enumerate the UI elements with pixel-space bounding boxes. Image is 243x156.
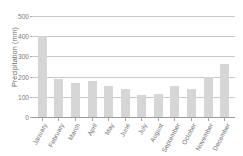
- bar-slot: [34, 16, 51, 117]
- bars-layer: [32, 16, 235, 117]
- bar[interactable]: [170, 86, 179, 117]
- bar-slot: [133, 16, 150, 117]
- x-tick-label: August: [149, 122, 165, 143]
- bar[interactable]: [104, 86, 113, 117]
- y-tick-label-300: 300: [18, 53, 29, 60]
- x-label-slot: October: [183, 121, 200, 156]
- x-tick-label: October: [181, 122, 198, 146]
- x-label-slot: July: [133, 121, 150, 156]
- bar-slot: [100, 16, 117, 117]
- bar[interactable]: [137, 95, 146, 117]
- x-label-slot: December: [216, 121, 233, 156]
- bar[interactable]: [154, 94, 163, 117]
- bar-slot: [216, 16, 233, 117]
- bar[interactable]: [71, 83, 80, 117]
- bar-slot: [117, 16, 134, 117]
- bar-slot: [51, 16, 68, 117]
- x-label-slot: April: [84, 121, 101, 156]
- bar[interactable]: [204, 77, 213, 117]
- x-tick-label: May: [103, 122, 115, 136]
- x-tick-label: July: [136, 122, 148, 136]
- y-tick-label-500: 500: [18, 13, 29, 20]
- precipitation-bar-chart: Precipitation (mm) 0100200300400500 Janu…: [0, 0, 243, 156]
- y-tick-label-400: 400: [18, 33, 29, 40]
- bar[interactable]: [88, 81, 97, 117]
- bar[interactable]: [38, 36, 47, 117]
- y-tick-label-200: 200: [18, 73, 29, 80]
- x-tick-label: March: [67, 122, 82, 141]
- bar[interactable]: [121, 89, 130, 117]
- x-tick-label: January: [31, 122, 48, 146]
- bar[interactable]: [220, 64, 229, 117]
- bar-slot: [183, 16, 200, 117]
- bar-slot: [200, 16, 217, 117]
- x-axis-labels: JanuaryFebruaryMarchAprilMayJuneJulyAugu…: [32, 121, 235, 156]
- bar-slot: [150, 16, 167, 117]
- bar-slot: [84, 16, 101, 117]
- x-tick-label: April: [86, 122, 98, 137]
- bar[interactable]: [54, 79, 63, 117]
- bar[interactable]: [187, 89, 196, 117]
- bar-slot: [67, 16, 84, 117]
- bar-slot: [167, 16, 184, 117]
- x-label-slot: May: [100, 121, 117, 156]
- x-label-slot: January: [34, 121, 51, 156]
- x-label-slot: November: [200, 121, 217, 156]
- y-tick-label-0: 0: [25, 114, 29, 121]
- x-label-slot: February: [51, 121, 68, 156]
- x-label-slot: March: [67, 121, 84, 156]
- plot-area: 0100200300400500: [32, 16, 235, 117]
- x-tick-label: June: [119, 122, 132, 138]
- y-tick-label-100: 100: [18, 93, 29, 100]
- x-label-slot: June: [117, 121, 134, 156]
